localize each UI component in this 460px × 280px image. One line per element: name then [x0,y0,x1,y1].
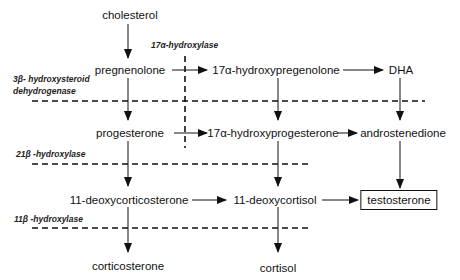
enzyme-label-21b-hydroxylase: 21β -hydroxylase [16,149,86,160]
node-cholesterol: cholesterol [102,8,158,22]
node-17a-hydroxyprogesterone: 17α-hydroxyprogesterone [207,126,338,140]
enzyme-label-3b-hsd-line2: dehydrogenase [13,86,76,97]
node-pregnenolone: pregnenolone [95,63,165,77]
node-androstenedione: androstenedione [360,126,446,140]
steroid-pathway-diagram: 17α-hydroxylase 3β- hydroxysteroid dehyd… [0,0,460,280]
enzyme-label-11b-hydroxylase: 11β -hydroxylase [14,214,83,225]
diagram-lines [0,0,460,280]
node-11-deoxycorticosterone: 11-deoxycorticosterone [70,193,189,207]
enzyme-label-3b-hsd-line1: 3β- hydroxysteroid [13,74,90,85]
node-dha: DHA [389,63,413,77]
node-progesterone: progesterone [96,126,164,140]
node-corticosterone: corticosterone [92,259,164,273]
node-cortisol: cortisol [260,261,296,275]
node-11-deoxycortisol: 11-deoxycortisol [234,193,317,207]
enzyme-label-17a-hydroxylase: 17α-hydroxylase [151,40,218,51]
node-testosterone: testosterone [360,190,437,210]
node-17a-hydroxypregnenolone: 17α-hydroxypregenolone [212,63,339,77]
